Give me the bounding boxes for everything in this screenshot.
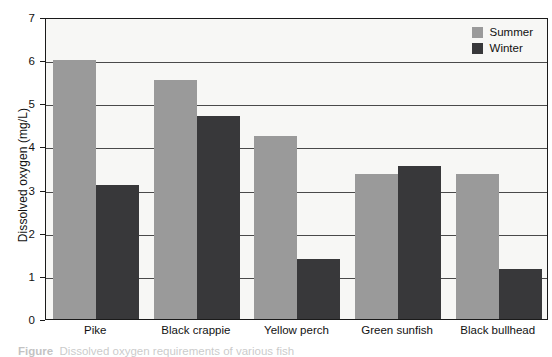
bar-winter: [398, 166, 441, 319]
figure-caption: Figure Dissolved oxygen requirements of …: [18, 345, 294, 357]
bar-group: [147, 19, 248, 319]
bar-winter: [96, 185, 139, 319]
y-tick-label: 7: [29, 12, 35, 24]
x-tick-label: Yellow perch: [264, 324, 329, 336]
x-tick-label: Black crappie: [161, 324, 230, 336]
y-tick-label: 0: [29, 314, 35, 326]
bar-group: [448, 19, 548, 319]
x-tick-label: Black bullhead: [460, 324, 535, 336]
bar-winter: [297, 259, 340, 319]
bar-winter: [499, 269, 542, 319]
bar-group: [247, 19, 348, 319]
bars-layer: [46, 19, 547, 319]
legend-item-summer: Summer: [472, 27, 533, 39]
bar-summer: [254, 136, 297, 319]
legend-item-winter: Winter: [472, 43, 533, 55]
bar-summer: [53, 60, 96, 319]
legend-swatch-summer: [472, 27, 483, 38]
bar-summer: [456, 174, 499, 319]
y-tick-mark: [40, 320, 45, 321]
caption-text: Dissolved oxygen requirements of various…: [60, 345, 295, 357]
plot-area: SummerWinter: [45, 18, 548, 320]
legend-swatch-winter: [472, 43, 483, 54]
legend-label: Winter: [490, 43, 523, 55]
bar-winter: [197, 116, 240, 319]
bar-group: [46, 19, 147, 319]
bar-summer: [355, 174, 398, 319]
x-tick-label: Pike: [84, 324, 106, 336]
bar-group: [348, 19, 449, 319]
x-tick-label: Green sunfish: [361, 324, 433, 336]
legend: SummerWinter: [472, 27, 533, 58]
legend-label: Summer: [490, 27, 533, 39]
y-axis-title: Dissolved oxygen (mg/L): [16, 60, 30, 290]
caption-figure-number: Figure: [18, 345, 60, 357]
bar-summer: [154, 80, 197, 319]
